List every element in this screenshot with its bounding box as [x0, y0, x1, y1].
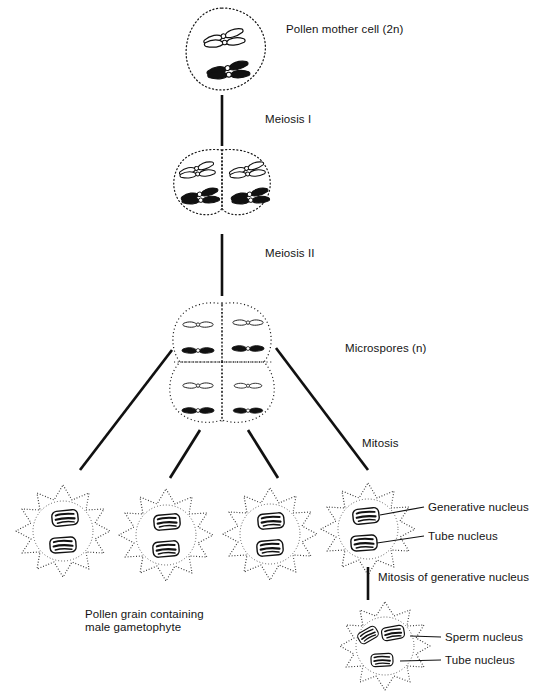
label-meiosis-1: Meiosis I — [265, 112, 311, 126]
microspore-cell — [222, 303, 271, 362]
chromosome-solid — [180, 186, 219, 204]
tube-nucleus — [50, 537, 77, 554]
label-mitosis: Mitosis — [362, 436, 398, 450]
sperm-nucleus — [356, 625, 379, 645]
connector-to-pollen-grain-3 — [248, 430, 278, 478]
chromosome-solid — [233, 408, 262, 413]
chromosome-outlined — [183, 322, 213, 327]
label-pollen-grain-caption-line-2: male gametophyte — [85, 620, 181, 634]
chromosome-solid — [230, 186, 269, 204]
label-meiosis-2: Meiosis II — [265, 246, 315, 260]
chromosome-outlined — [233, 320, 263, 325]
pollen-exine — [223, 488, 317, 580]
microspore-cell — [170, 362, 222, 422]
tube-nucleus — [371, 653, 393, 667]
pollen-grain — [16, 485, 110, 577]
pollen-exine — [119, 489, 213, 581]
leader-tube-nucleus — [377, 536, 424, 543]
dyad-cell-left — [174, 150, 222, 215]
connector-to-pollen-grain-1 — [80, 350, 172, 470]
stage-tetrad — [170, 302, 275, 422]
pollen-grain-mature — [340, 602, 430, 690]
leader-sperm-nucleus — [410, 636, 441, 637]
tube-nucleus — [351, 535, 378, 552]
chromosome-solid — [232, 346, 264, 352]
chromosome-solid — [182, 408, 214, 414]
generative-nucleus — [51, 509, 78, 527]
dyad-cell-right — [222, 150, 270, 215]
label-sperm-nucleus: Sperm nucleus — [445, 630, 523, 644]
label-pollen-mother-cell: Pollen mother cell (2n) — [286, 22, 403, 36]
connector-to-pollen-grain-4 — [276, 348, 368, 470]
label-pollen-grain-caption-line-1: Pollen grain containing — [85, 607, 204, 621]
label-tube-nucleus-mature: Tube nucleus — [445, 653, 515, 667]
pollen-exine — [321, 483, 415, 575]
connector-to-pollen-grain-2 — [170, 430, 200, 478]
chromosome-outlined — [183, 383, 213, 388]
label-tube-nucleus: Tube nucleus — [428, 529, 498, 543]
pollen-formation-diagram — [0, 0, 545, 699]
stage-pollen-mother-cell — [186, 8, 265, 90]
label-generative-nucleus: Generative nucleus — [428, 500, 529, 514]
bivalent-solid — [206, 59, 250, 79]
connectors-mitosis — [80, 348, 368, 478]
tube-nucleus — [256, 539, 283, 556]
chromosome-outlined — [234, 383, 262, 388]
tube-nucleus — [152, 540, 179, 557]
figure-canvas: Pollen mother cell (2n) Meiosis I Meiosi… — [0, 0, 545, 699]
label-mitosis-of-generative-nucleus: Mitosis of generative nucleus — [378, 570, 529, 584]
bivalent-outlined — [203, 27, 246, 48]
stage-dyad — [174, 150, 271, 215]
chromosome-solid — [182, 348, 214, 354]
generative-nucleus — [257, 512, 284, 529]
generative-nucleus — [153, 513, 180, 530]
microspore-cell — [222, 362, 274, 422]
leader-generative-nucleus — [380, 507, 424, 515]
pollen-exine — [16, 485, 110, 577]
label-microspores: Microspores (n) — [345, 341, 426, 355]
chromosome-outlined — [179, 160, 216, 179]
pollen-grain — [119, 489, 213, 581]
sperm-nucleus — [381, 625, 405, 642]
generative-nucleus — [352, 507, 379, 525]
pollen-exine — [340, 602, 430, 690]
leader-tube-nucleus-mature — [400, 660, 441, 661]
pollen-grain — [223, 488, 317, 580]
microspore-cell — [173, 303, 222, 362]
pollen-grain-labelled — [321, 483, 415, 575]
chromosome-outlined — [229, 160, 266, 179]
